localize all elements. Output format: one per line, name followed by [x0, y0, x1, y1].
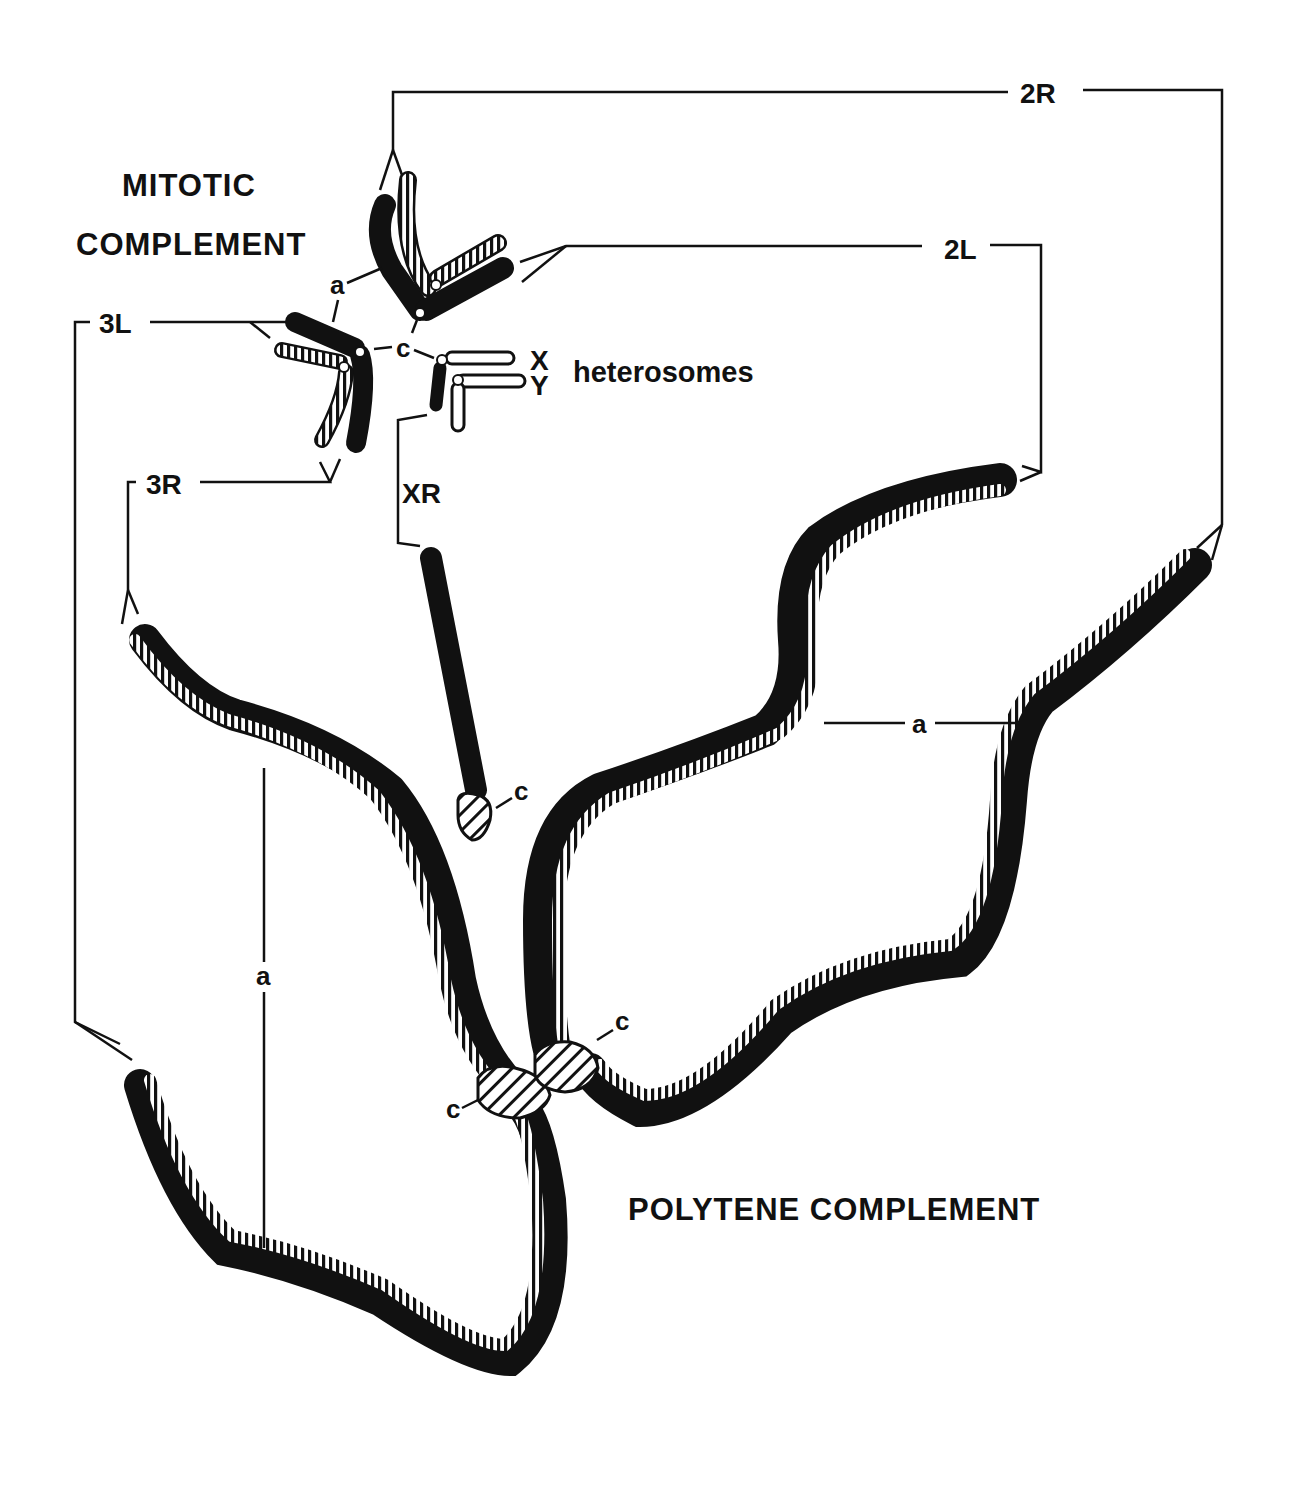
label-3r: 3R	[146, 469, 182, 500]
marker-line-c2	[412, 320, 417, 333]
mitotic-title-line1: MITOTIC	[122, 168, 256, 203]
polytene-title: POLYTENE COMPLEMENT	[628, 1192, 1040, 1227]
marker-line-c3	[414, 350, 434, 358]
label-3l: 3L	[99, 308, 132, 339]
marker-line-c-left	[462, 1100, 478, 1108]
marker-a-polytene-3: a	[256, 961, 271, 991]
mitotic-heterosomes	[436, 352, 525, 431]
marker-line-c-xr	[496, 798, 512, 808]
polytene-xr-arm	[431, 558, 491, 840]
label-2r: 2R	[1020, 78, 1056, 109]
label-xr: XR	[402, 478, 441, 509]
polytene-chromosome-3	[135, 640, 552, 1360]
marker-line-c	[374, 347, 392, 349]
label-2l: 2L	[944, 234, 977, 265]
marker-line-a2	[333, 300, 338, 322]
marker-c-xr: c	[514, 776, 528, 806]
mitotic-chromosome-3	[282, 322, 365, 443]
marker-line-a	[347, 268, 382, 283]
marker-a-mitotic: a	[330, 270, 345, 300]
label-y: Y	[530, 370, 549, 401]
marker-line-c-right	[597, 1030, 613, 1040]
marker-c-polytene-left: c	[446, 1094, 460, 1124]
chromosome-diagram: MITOTIC COMPLEMENT POLYTENE COMPLEMENT 2…	[0, 0, 1293, 1485]
heterosomes-label: heterosomes	[573, 356, 754, 388]
bracket-2r	[380, 90, 1222, 560]
marker-a-polytene-2: a	[912, 709, 927, 739]
marker-c-mitotic: c	[396, 333, 410, 363]
mitotic-chromosome-2	[380, 180, 503, 318]
mitotic-title-line2: COMPLEMENT	[76, 227, 306, 262]
marker-c-polytene-right: c	[615, 1006, 629, 1036]
polytene-chromosome-2	[535, 480, 1195, 1110]
